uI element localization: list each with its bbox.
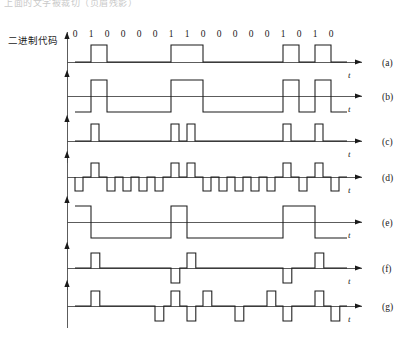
axis-t-label: t (348, 314, 351, 324)
binary-bit: 0 (259, 29, 275, 39)
time-axis-arrowhead (355, 303, 362, 308)
binary-bit: 0 (291, 29, 307, 39)
waveforms-group (75, 45, 347, 321)
time-axis-arrowhead (355, 219, 362, 224)
amplitude-axis-arrowhead (64, 115, 69, 122)
axis-t-label: t (348, 149, 351, 159)
amplitude-axis-arrowhead (64, 151, 69, 158)
row-letter: (c) (382, 137, 393, 147)
page-header-ghost-text: 上面的文字被裁切（页眉残影） (4, 0, 254, 8)
amplitude-axis-arrowhead (64, 196, 69, 203)
binary-bit: 1 (179, 29, 195, 39)
binary-code-label: 二进制代码 (8, 33, 58, 47)
binary-bit: 1 (275, 29, 291, 39)
axes-group (64, 32, 362, 328)
axis-t-label: t (348, 185, 351, 195)
binary-bit: 1 (307, 29, 323, 39)
time-axis-arrowhead (355, 59, 362, 64)
amplitude-axis-arrowhead (64, 280, 69, 287)
binary-bit: 0 (227, 29, 243, 39)
time-axis-arrowhead (355, 138, 362, 143)
amplitude-axis-arrowhead (64, 70, 69, 77)
amplitude-axis-arrowhead (64, 242, 69, 249)
axis-t-label: t (348, 104, 351, 114)
binary-bit: 1 (163, 29, 179, 39)
waveform-unipolar-nrz (75, 45, 347, 62)
row-letter: (a) (382, 58, 393, 68)
axis-t-label: t (348, 70, 351, 80)
binary-bit: 0 (323, 29, 339, 39)
waveform-unipolar-rz (75, 124, 347, 141)
line-code-waveform-figure: 上面的文字被裁切（页眉残影） 二进制代码 01000011000001010 (… (0, 0, 415, 344)
binary-bit: 0 (211, 29, 227, 39)
binary-bit: 0 (99, 29, 115, 39)
time-axis-arrowhead (355, 93, 362, 98)
row-letter: (d) (382, 173, 393, 183)
time-axis-arrowhead (355, 174, 362, 179)
axis-t-label: t (348, 230, 351, 240)
row-letter: (f) (382, 264, 392, 274)
binary-bit: 0 (131, 29, 147, 39)
binary-bit: 0 (195, 29, 211, 39)
binary-bit: 1 (83, 29, 99, 39)
waveform-plot (0, 0, 415, 344)
axis-t-label: t (348, 276, 351, 286)
row-letter: (e) (382, 218, 393, 228)
time-axis-arrowhead (355, 265, 362, 270)
waveform-ami-alternate-mark-inversion (75, 253, 347, 283)
binary-bit: 0 (147, 29, 163, 39)
row-letter: (g) (382, 302, 393, 312)
binary-bit: 0 (115, 29, 131, 39)
binary-bit: 0 (243, 29, 259, 39)
binary-bit: 0 (67, 29, 83, 39)
row-letter: (b) (382, 92, 393, 102)
